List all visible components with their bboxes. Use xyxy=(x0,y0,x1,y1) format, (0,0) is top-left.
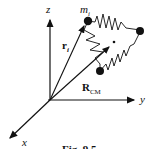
diagram-center-of-mass: z y x mi ri RCM Fig. 9.5 xyxy=(0,0,153,149)
mass-label: mi xyxy=(80,4,90,18)
mass-bottom xyxy=(96,67,104,75)
spring-middle xyxy=(84,21,103,71)
r-i-vector xyxy=(50,26,84,100)
figure-caption: Fig. 9.5 xyxy=(62,144,97,149)
x-axis-label: x xyxy=(22,137,27,148)
center-of-mass-point xyxy=(113,41,116,44)
spring-bottom xyxy=(100,32,140,71)
y-axis-label: y xyxy=(140,94,145,105)
x-axis xyxy=(10,100,50,138)
mass-right xyxy=(136,27,144,35)
diagram-graphics xyxy=(0,0,153,149)
spring-top xyxy=(88,14,140,30)
r-i-label: ri xyxy=(62,40,69,54)
r-cm-label: RCM xyxy=(82,82,101,96)
z-axis-label: z xyxy=(46,4,50,15)
